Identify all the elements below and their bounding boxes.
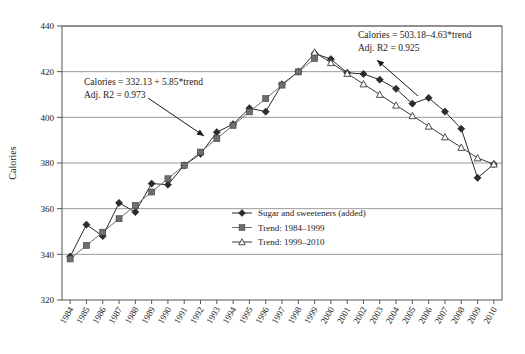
y-tick-label: 380: [41, 158, 55, 168]
sugar-calories-line-chart: 320340360380400420440 198419851986198719…: [0, 0, 525, 354]
y-tick-label: 400: [41, 113, 55, 123]
chart-container: 320340360380400420440 198419851986198719…: [0, 0, 525, 354]
annotation-line: Calories = 503.18–4.63*trend: [358, 30, 472, 40]
annotation-line: Adj. R2 = 0.925: [358, 43, 420, 53]
legend-label: Trend: 1999–2010: [258, 237, 325, 247]
y-tick-label: 440: [41, 21, 55, 31]
y-axis-title: Calories: [7, 146, 18, 179]
y-tick-label: 320: [41, 295, 55, 305]
chart-background: [0, 0, 525, 354]
legend-label: Sugar and sweeteners (added): [258, 208, 366, 218]
annotation-line: Adj. R2 = 0.973: [84, 90, 146, 100]
legend-label: Trend: 1984–1999: [258, 223, 325, 233]
y-tick-label: 420: [41, 67, 55, 77]
y-tick-label: 360: [41, 204, 55, 214]
y-tick-label: 340: [41, 250, 55, 260]
annotation-line: Calories = 332.13 + 5.85*trend: [84, 77, 203, 87]
